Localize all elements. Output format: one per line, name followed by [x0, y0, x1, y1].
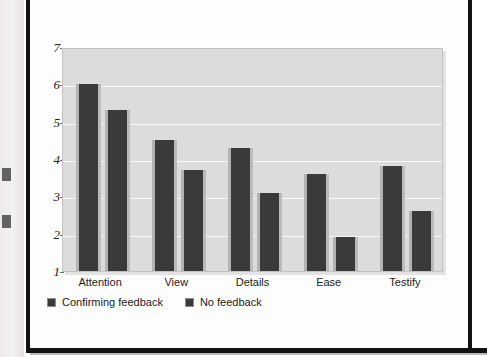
- bar: [152, 140, 174, 271]
- y-axis-tick-label: 7: [34, 41, 60, 54]
- x-axis-label-attention: Attention: [78, 276, 121, 288]
- bar: [380, 166, 402, 271]
- bar: [257, 193, 279, 271]
- page-border-bottom-shadow: [30, 353, 487, 355]
- legend-label: No feedback: [200, 296, 262, 308]
- plot-area-wrapper: [62, 48, 443, 272]
- y-axis-tick-label: 2: [34, 228, 60, 241]
- y-axis-tick-label: 3: [34, 190, 60, 203]
- y-axis-tick-label: 6: [34, 78, 60, 91]
- chart-legend: Confirming feedbackNo feedback: [47, 296, 262, 308]
- bars-layer: [63, 49, 442, 271]
- y-axis-ticks: 1234567: [28, 48, 60, 272]
- legend-swatch-icon: [185, 298, 194, 307]
- scan-artifact-mark: [2, 168, 11, 181]
- plot-area: [62, 48, 443, 272]
- x-axis-label-testify: Testify: [389, 276, 420, 288]
- bar: [105, 110, 127, 271]
- bar: [76, 84, 98, 271]
- scanned-page: Ratings of witnessing experience 1234567…: [0, 0, 487, 357]
- legend-item: Confirming feedback: [47, 296, 163, 308]
- bar: [181, 170, 203, 271]
- x-axis-label-ease: Ease: [316, 276, 341, 288]
- legend-swatch-icon: [47, 298, 56, 307]
- y-axis-tick-mark: [60, 272, 64, 273]
- bar: [409, 211, 431, 271]
- bar-chart-figure: Ratings of witnessing experience 1234567…: [30, 0, 468, 348]
- y-axis-tick-label: 4: [34, 153, 60, 166]
- legend-item: No feedback: [185, 296, 262, 308]
- bar: [333, 237, 355, 271]
- scan-artifact-mark: [2, 215, 11, 228]
- y-axis-tick-label: 1: [34, 265, 60, 278]
- bar: [304, 174, 326, 271]
- x-axis-category-labels: AttentionViewDetailsEaseTestify: [62, 276, 443, 294]
- page-border-right: [468, 0, 472, 352]
- y-axis-tick-label: 5: [34, 116, 60, 129]
- bar: [228, 148, 250, 271]
- x-axis-label-details: Details: [236, 276, 270, 288]
- x-axis-label-view: View: [164, 276, 188, 288]
- legend-label: Confirming feedback: [62, 296, 163, 308]
